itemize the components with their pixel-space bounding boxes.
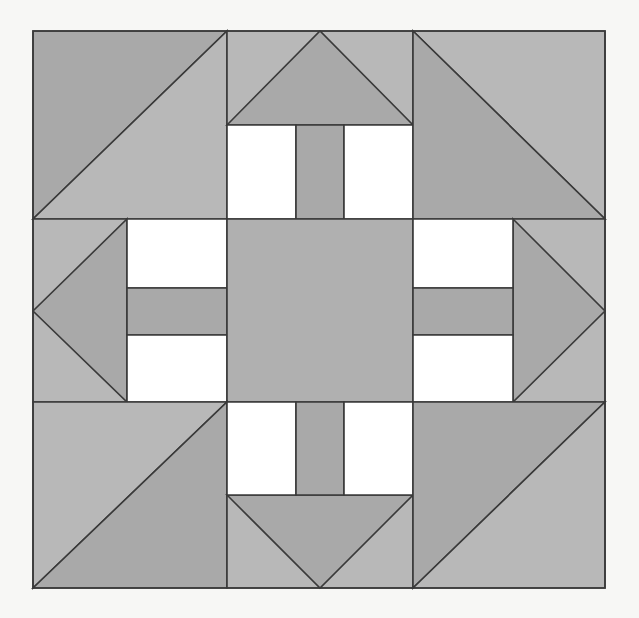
cell-middle-right bbox=[413, 219, 605, 402]
bottom-bar-right-white bbox=[344, 402, 413, 495]
cell-top-left bbox=[33, 31, 227, 219]
top-bar-right-white bbox=[344, 125, 413, 219]
center-square bbox=[227, 219, 413, 402]
cell-middle-left bbox=[33, 219, 227, 402]
cell-bottom-center bbox=[227, 402, 413, 588]
bottom-bar-center-gray bbox=[296, 402, 344, 495]
cell-top-center bbox=[227, 31, 413, 219]
right-bar-mid-gray bbox=[413, 288, 513, 335]
cell-bottom-left bbox=[33, 402, 227, 588]
right-bar-bottom-white bbox=[413, 335, 513, 402]
top-bar-left-white bbox=[227, 125, 296, 219]
top-bar-center-gray bbox=[296, 125, 344, 219]
quilt-block-diagram bbox=[0, 0, 639, 618]
bottom-bar-left-white bbox=[227, 402, 296, 495]
right-bar-top-white bbox=[413, 219, 513, 288]
diagram-canvas bbox=[0, 0, 639, 618]
left-bar-mid-gray bbox=[127, 288, 227, 335]
cell-top-right bbox=[413, 31, 605, 219]
cell-middle-center bbox=[227, 219, 413, 402]
left-bar-top-white bbox=[127, 219, 227, 288]
cell-bottom-right bbox=[413, 402, 605, 588]
left-bar-bottom-white bbox=[127, 335, 227, 402]
